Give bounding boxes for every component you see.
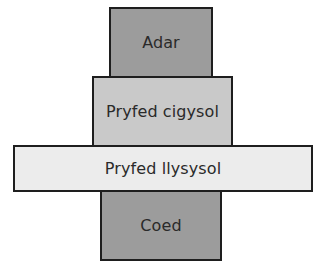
- level-label: Coed: [140, 216, 181, 235]
- level-pryfed-cigysol: Pryfed cigysol: [92, 76, 233, 147]
- level-adar: Adar: [109, 7, 213, 78]
- level-label: Pryfed cigysol: [106, 102, 219, 121]
- level-coed: Coed: [100, 190, 222, 261]
- level-label: Adar: [142, 33, 180, 52]
- level-label: Pryfed llysysol: [105, 159, 221, 178]
- level-pryfed-llysysol: Pryfed llysysol: [13, 145, 313, 192]
